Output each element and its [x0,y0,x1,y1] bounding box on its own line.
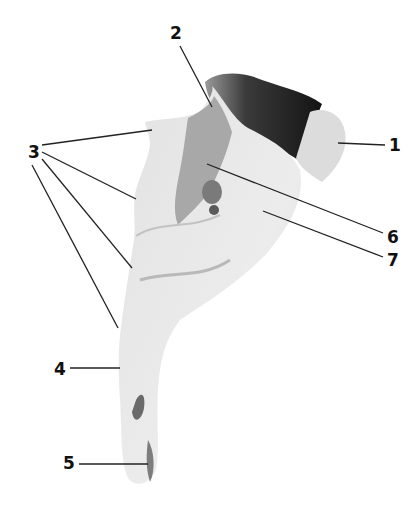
label-2: 2 [170,25,182,42]
leader-line-2 [180,46,212,107]
leader-line-3c [42,159,132,268]
leader-line-3d [32,165,118,328]
bone-figure [0,0,418,512]
label-4: 4 [54,361,66,378]
label-1: 1 [389,137,401,154]
bone-pit [202,180,222,204]
label-7: 7 [387,252,399,269]
leader-line-3a [42,130,152,145]
label-6: 6 [387,229,399,246]
label-3: 3 [28,144,40,161]
bone-pit [209,205,219,215]
bone-specimen [119,73,346,483]
label-5: 5 [63,455,75,472]
